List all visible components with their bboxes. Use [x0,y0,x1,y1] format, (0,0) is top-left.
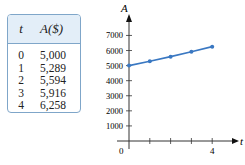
data-point [189,50,193,54]
x-axis-arrow-icon [232,138,239,144]
x-tick-label: 4 [210,146,215,156]
y-tick-label: 2000 [106,106,123,116]
y-tick-label: 3000 [106,91,123,101]
y-tick-label: 7000 [106,30,123,40]
data-point [169,55,173,59]
data-point [127,64,131,68]
line-chart: At100020003000400050006000700004 [0,0,245,165]
data-point [148,59,152,63]
y-tick-label: 1000 [106,121,123,131]
y-tick-label: 6000 [106,46,123,56]
y-tick-label: 4000 [106,76,123,86]
origin-label: 0 [119,146,124,156]
y-tick-label: 5000 [106,61,123,71]
data-point [210,45,214,49]
y-axis-arrow-icon [126,14,132,22]
y-axis-label: A [120,2,128,14]
x-axis-label: t [240,135,244,147]
